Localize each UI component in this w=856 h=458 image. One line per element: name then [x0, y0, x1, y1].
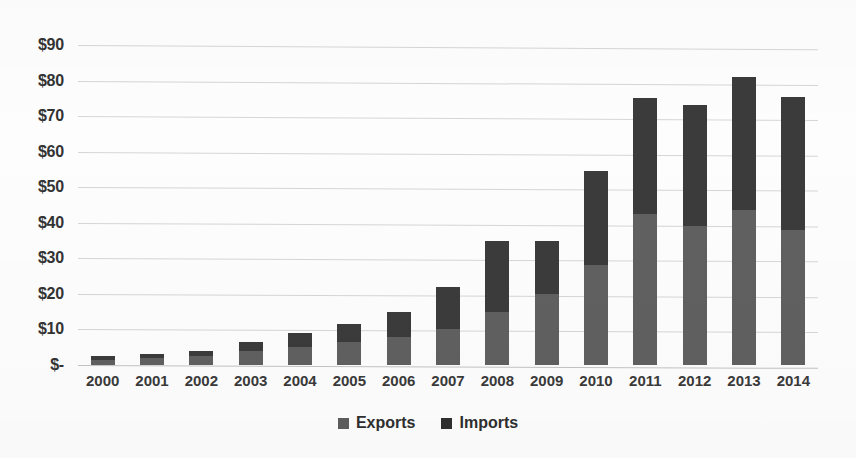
y-axis-tick-label: $50 — [38, 178, 64, 196]
bar-group — [436, 287, 460, 365]
bar-segment-exports — [781, 230, 805, 365]
bar-segment-imports — [387, 312, 411, 337]
x-axis-tick-label: 2004 — [283, 372, 316, 389]
bar-segment-exports — [239, 351, 263, 365]
bar-group — [288, 333, 312, 365]
x-axis-tick-label: 2007 — [431, 372, 464, 389]
x-axis-tick-label: 2013 — [727, 372, 760, 389]
x-axis-tick-label: 2014 — [777, 372, 810, 389]
y-axis: $-$10$20$30$40$50$60$70$80$90 — [0, 45, 72, 365]
bar-group — [683, 105, 707, 365]
x-axis-tick-label: 2011 — [629, 372, 662, 389]
x-axis-tick-label: 2009 — [530, 372, 563, 389]
legend-label-imports: Imports — [459, 414, 518, 432]
bar-group — [337, 324, 361, 365]
bar-segment-exports — [485, 312, 509, 365]
bar-segment-imports — [584, 171, 608, 265]
x-axis-tick-label: 2003 — [234, 372, 267, 389]
y-axis-tick-label: $90 — [38, 36, 64, 54]
bar-segment-exports — [140, 358, 164, 365]
bar-group — [732, 77, 756, 365]
y-axis-tick-label: $60 — [38, 143, 64, 161]
y-axis-tick-label: $40 — [38, 214, 64, 232]
y-axis-tick-label: $80 — [38, 72, 64, 90]
bar-segment-exports — [288, 347, 312, 365]
bar-segment-imports — [288, 333, 312, 347]
x-axis-tick-label: 2005 — [333, 372, 366, 389]
bar-segment-exports — [535, 294, 559, 365]
y-axis-tick-label: $70 — [38, 107, 64, 125]
y-axis-tick-label: $10 — [38, 320, 64, 338]
x-axis-tick-label: 2010 — [579, 372, 612, 389]
bar-segment-exports — [584, 265, 608, 365]
legend-item-exports: Exports — [338, 414, 416, 432]
bar-group — [140, 354, 164, 365]
x-axis-tick-label: 2006 — [382, 372, 415, 389]
bar-group — [781, 97, 805, 365]
bar-series-container — [78, 45, 818, 365]
legend-swatch-imports-icon — [441, 418, 452, 429]
x-axis-tick-label: 2001 — [135, 372, 168, 389]
bar-segment-imports — [436, 287, 460, 330]
bar-segment-imports — [239, 342, 263, 351]
bar-segment-imports — [732, 77, 756, 210]
bar-segment-exports — [91, 360, 115, 365]
bar-segment-exports — [633, 214, 657, 365]
bar-segment-exports — [387, 337, 411, 365]
bar-group — [189, 351, 213, 365]
bar-group — [633, 98, 657, 365]
bar-segment-imports — [781, 97, 805, 230]
plot-area — [78, 45, 818, 365]
bar-segment-imports — [683, 105, 707, 226]
gridline-0 — [78, 365, 818, 369]
bar-segment-imports — [633, 98, 657, 214]
bar-group — [535, 241, 559, 365]
bar-group — [239, 342, 263, 365]
bar-segment-imports — [535, 241, 559, 294]
y-axis-tick-label: $30 — [38, 249, 64, 267]
x-axis-tick-label: 2012 — [678, 372, 711, 389]
bar-group — [485, 241, 509, 365]
bar-segment-exports — [189, 356, 213, 365]
chart-legend: Exports Imports — [0, 414, 856, 432]
bar-segment-exports — [732, 210, 756, 365]
bar-segment-exports — [436, 329, 460, 365]
bar-segment-imports — [485, 241, 509, 312]
y-axis-tick-label: $20 — [38, 285, 64, 303]
stacked-bar-chart: $-$10$20$30$40$50$60$70$80$90 2000200120… — [0, 0, 856, 458]
x-axis: 2000200120022003200420052006200720082009… — [78, 372, 818, 398]
x-axis-tick-label: 2000 — [86, 372, 119, 389]
x-axis-tick-label: 2002 — [185, 372, 218, 389]
bar-group — [387, 312, 411, 365]
y-axis-tick-label: $- — [50, 356, 64, 374]
legend-item-imports: Imports — [441, 414, 518, 432]
bar-segment-exports — [337, 342, 361, 365]
bar-group — [91, 356, 115, 365]
legend-swatch-exports-icon — [338, 418, 349, 429]
bar-group — [584, 171, 608, 365]
legend-label-exports: Exports — [356, 414, 416, 432]
bar-segment-imports — [337, 324, 361, 342]
bar-segment-exports — [683, 226, 707, 365]
x-axis-tick-label: 2008 — [481, 372, 514, 389]
